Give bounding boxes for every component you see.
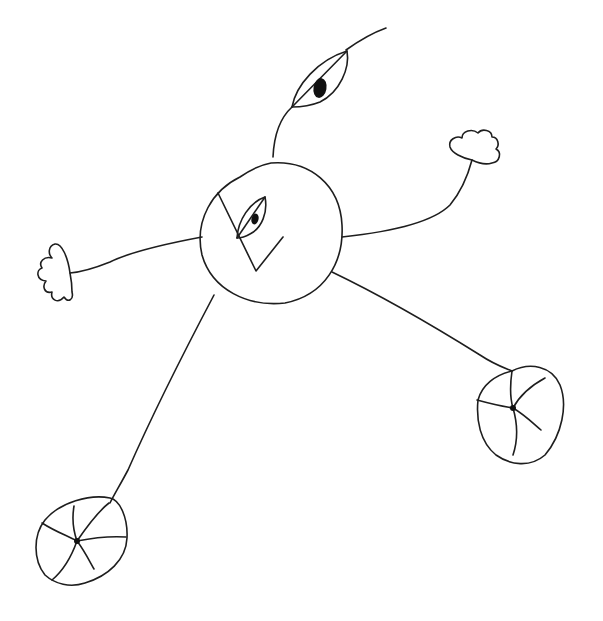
left-arm xyxy=(70,237,202,273)
right-foot-wheel-icon xyxy=(477,366,564,463)
antenna-stalk xyxy=(273,28,386,157)
body-circle xyxy=(200,163,342,304)
right-leg xyxy=(332,272,512,371)
right-hand-icon xyxy=(450,130,500,164)
left-hand-icon xyxy=(38,244,72,301)
right-arm xyxy=(342,160,472,237)
v-mark xyxy=(218,193,283,271)
creature-drawing xyxy=(0,0,603,621)
body-eye-icon xyxy=(237,197,266,238)
left-leg xyxy=(110,295,214,503)
stalk-eye-icon xyxy=(292,51,348,107)
left-foot-wheel-icon xyxy=(36,497,127,585)
sketch-canvas xyxy=(0,0,603,621)
